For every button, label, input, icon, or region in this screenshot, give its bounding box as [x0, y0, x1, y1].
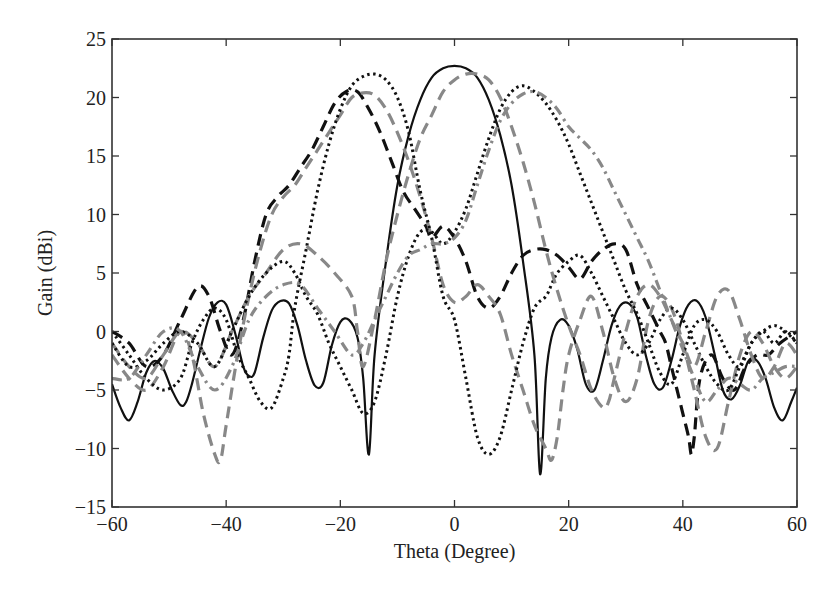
y-axis-label: Gain (dBi) — [34, 230, 57, 316]
x-tick-label: 60 — [787, 513, 807, 535]
x-tick-labels: −60−40−200204060 — [96, 513, 807, 535]
series-line-1 — [112, 66, 797, 474]
y-tick-label: −10 — [75, 438, 106, 460]
y-tick-label: 10 — [86, 204, 106, 226]
x-tick-label: 40 — [673, 513, 693, 535]
y-tick-label: −15 — [75, 496, 106, 518]
series-layer — [112, 66, 797, 474]
series-line-3 — [112, 93, 797, 463]
gain-vs-theta-chart: −60−40−200204060 −15−10−50510152025 Thet… — [0, 0, 840, 591]
x-tick-label: 20 — [559, 513, 579, 535]
series-line-2 — [112, 90, 797, 455]
x-tick-label: −40 — [211, 513, 242, 535]
y-tick-label: 15 — [86, 145, 106, 167]
y-tick-label: −5 — [85, 379, 106, 401]
x-tick-label: 0 — [450, 513, 460, 535]
y-tick-label: 0 — [96, 321, 106, 343]
series-line-5 — [112, 73, 797, 408]
series-line-6 — [112, 86, 797, 414]
x-axis-label: Theta (Degree) — [394, 540, 516, 563]
y-tick-labels: −15−10−50510152025 — [75, 28, 106, 518]
y-tick-label: 20 — [86, 87, 106, 109]
series-line-7 — [112, 92, 797, 402]
y-tick-label: 5 — [96, 262, 106, 284]
series-line-4 — [112, 74, 797, 454]
y-tick-label: 25 — [86, 28, 106, 50]
x-tick-label: −20 — [325, 513, 356, 535]
